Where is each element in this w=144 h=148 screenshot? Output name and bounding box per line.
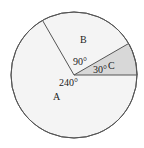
label-a-angle: 240° — [59, 77, 78, 88]
label-a-name: A — [53, 91, 61, 102]
label-b-name: B — [80, 34, 87, 45]
label-b-angle: 90° — [73, 56, 87, 67]
pie-chart: B 90° C 30° 240° A — [0, 0, 144, 148]
label-c-angle: 30° — [93, 64, 107, 75]
label-c-name: C — [108, 60, 115, 71]
